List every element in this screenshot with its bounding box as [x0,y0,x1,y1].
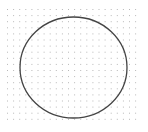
grid-dot [74,9,75,10]
grid-dot [56,76,57,77]
grid-dot [25,40,26,41]
grid-dot [86,101,87,102]
grid-dot [80,88,81,89]
grid-dot [44,46,45,47]
grid-dot [92,21,93,22]
grid-dot [68,9,69,10]
grid-dot [62,94,63,95]
grid-dot [80,46,81,47]
grid-dot [13,64,14,65]
grid-dot [7,88,8,89]
grid-dot [7,9,8,10]
grid-dot [86,27,87,28]
grid-dot [129,40,130,41]
grid-dot [86,58,87,59]
grid-dot [86,113,87,114]
grid-dot [80,33,81,34]
grid-dot [56,58,57,59]
grid-dot [31,113,32,114]
grid-dot [74,101,75,102]
grid-dot [129,15,130,16]
grid-dot [56,64,57,65]
grid-dot [123,76,124,77]
grid-dot [31,9,32,10]
grid-dot [13,40,14,41]
grid-dot [7,94,8,95]
grid-dot [105,88,106,89]
grid-dot [50,52,51,53]
grid-dot [92,119,93,120]
grid-dot [135,70,136,71]
grid-dot [99,46,100,47]
grid-dot [62,58,63,59]
grid-dot [62,40,63,41]
grid-dot [92,40,93,41]
grid-dot [68,101,69,102]
dot-grid [7,9,136,120]
grid-dot [123,113,124,114]
grid-dot [44,82,45,83]
grid-dot [13,21,14,22]
grid-dot [38,101,39,102]
grid-dot [86,64,87,65]
grid-dot [44,70,45,71]
grid-dot [111,119,112,120]
grid-dot [7,107,8,108]
grid-dot [13,33,14,34]
grid-dot [38,64,39,65]
grid-dot [56,82,57,83]
grid-dot [123,107,124,108]
grid-dot [62,70,63,71]
grid-dot [123,27,124,28]
grid-dot [117,88,118,89]
grid-dot [135,107,136,108]
grid-dot [74,119,75,120]
grid-dot [117,15,118,16]
grid-dot [7,119,8,120]
grid-dot [50,76,51,77]
grid-dot [129,33,130,34]
grid-dot [68,52,69,53]
grid-dot [56,21,57,22]
grid-dot [31,46,32,47]
grid-dot [117,107,118,108]
grid-dot [19,119,20,120]
grid-dot [62,107,63,108]
grid-dot [19,33,20,34]
grid-dot [19,40,20,41]
grid-dot [129,82,130,83]
circle-shape[interactable] [20,17,127,118]
grid-dot [38,70,39,71]
grid-dot [50,40,51,41]
grid-dot [25,27,26,28]
grid-dot [123,15,124,16]
grid-dot [13,94,14,95]
grid-dot [7,76,8,77]
grid-dot [68,15,69,16]
grid-dot [92,64,93,65]
grid-dot [31,58,32,59]
grid-dot [135,76,136,77]
grid-dot [123,33,124,34]
grid-dot [31,40,32,41]
grid-dot [44,9,45,10]
grid-dot [117,21,118,22]
drawing-canvas[interactable] [0,0,148,132]
grid-dot [25,94,26,95]
grid-dot [19,46,20,47]
grid-dot [123,101,124,102]
grid-dot [50,94,51,95]
grid-dot [62,119,63,120]
grid-dot [99,64,100,65]
grid-dot [105,82,106,83]
grid-dot [105,58,106,59]
grid-dot [129,27,130,28]
grid-dot [7,70,8,71]
grid-dot [68,119,69,120]
grid-dot [117,70,118,71]
grid-dot [38,107,39,108]
grid-dot [92,76,93,77]
grid-dot [74,21,75,22]
grid-dot [92,101,93,102]
grid-dot [25,15,26,16]
